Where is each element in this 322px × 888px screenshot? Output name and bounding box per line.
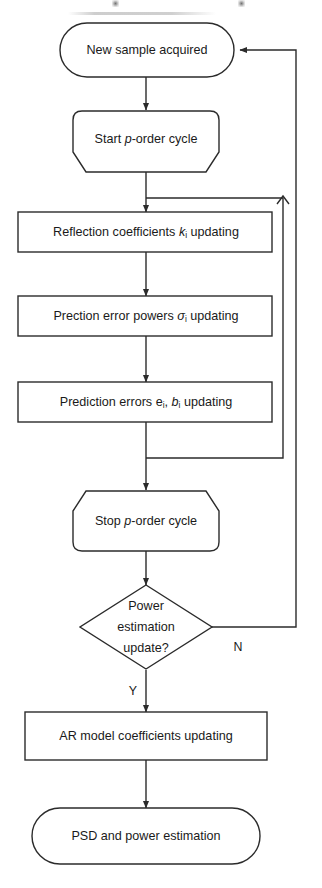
label-ar-model-coefficients: AR model coefficients updating (59, 729, 232, 743)
label-start-suffix: -order cycle (132, 132, 198, 146)
label-errors-separator: , (165, 395, 172, 409)
label-branch-yes: Y (129, 684, 137, 698)
label-start-italic-p: p (124, 132, 132, 146)
label-new-sample-acquired: New sample acquired (86, 43, 207, 57)
label-reflection-prefix: Reflection coefficients (53, 225, 179, 239)
label-psd-and-power-estimation: PSD and power estimation (71, 829, 220, 843)
label-start-prefix: Start (95, 132, 125, 146)
label-reflection-suffix: updating (187, 225, 239, 239)
label-stop-suffix: -order cycle (131, 514, 197, 528)
label-prediction-error-powers: Prection error powers σi updating (53, 309, 238, 324)
label-reflection-coefficients: Reflection coefficients ki updating (53, 225, 239, 240)
label-branch-no: N (234, 640, 243, 654)
flowchart-figure: New sample acquired Start p-order cycle … (0, 0, 322, 888)
label-powers-suffix: updating (187, 309, 239, 323)
label-powers-prefix: Prection error powers (53, 309, 177, 323)
label-decision-line-2: estimation (117, 620, 174, 634)
label-stop-prefix: Stop (95, 514, 124, 528)
label-stop-italic-p: p (123, 514, 131, 528)
label-errors-suffix: updating (180, 395, 232, 409)
label-decision-line-1: Power (128, 599, 164, 613)
label-errors-italic-b: b (172, 395, 179, 409)
flowchart-canvas: New sample acquired Start p-order cycle … (0, 0, 322, 888)
label-decision-line-3: update? (123, 641, 169, 655)
label-errors-prefix: Prediction errors e (60, 395, 163, 409)
label-start-p-order-cycle: Start p-order cycle (95, 132, 198, 146)
label-prediction-errors: Prediction errors ei, bi updating (60, 395, 232, 410)
label-stop-p-order-cycle: Stop p-order cycle (95, 514, 197, 528)
